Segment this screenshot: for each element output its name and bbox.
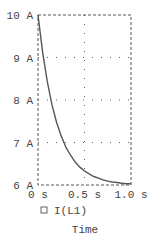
legend-label-i-l1: I(L1) xyxy=(54,205,87,217)
x-tick-label: 0 s xyxy=(28,189,48,201)
x-tick-label: 0.5 s xyxy=(68,189,101,201)
y-axis-ticks: 10 A9 A8 A7 A6 A xyxy=(7,10,34,192)
x-axis-ticks: 0 s0.5 s1.0 s xyxy=(28,189,147,201)
x-tick-label: 1.0 s xyxy=(114,189,147,201)
grid-lines xyxy=(38,15,131,185)
legend-marker-square-icon xyxy=(41,207,47,213)
x-axis-title: Time xyxy=(72,224,98,236)
y-tick-label: 10 A xyxy=(7,10,34,22)
y-tick-label: 8 A xyxy=(13,95,33,107)
y-tick-label: 9 A xyxy=(13,53,33,65)
series-line-i-l1 xyxy=(38,15,131,184)
y-tick-label: 7 A xyxy=(13,138,33,150)
chart: 10 A9 A8 A7 A6 A 0 s0.5 s1.0 s I(L1) Tim… xyxy=(0,0,156,241)
legend: I(L1) xyxy=(41,205,87,217)
